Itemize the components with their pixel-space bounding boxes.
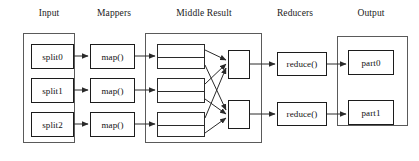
intermediate-partition-box bbox=[157, 78, 205, 103]
mapper-box: map() bbox=[90, 112, 135, 137]
mapper-box: map() bbox=[90, 78, 135, 103]
input-split-box: split2 bbox=[31, 112, 74, 137]
input-split-box: split0 bbox=[31, 44, 74, 69]
stage-label-middle-result: Middle Result bbox=[156, 8, 252, 18]
stage-label-output: Output bbox=[344, 8, 398, 18]
stage-label-input: Input bbox=[24, 8, 74, 18]
output-part-box: part0 bbox=[348, 50, 394, 75]
reducer-box: reduce() bbox=[277, 52, 327, 76]
reducer-box: reduce() bbox=[277, 102, 327, 126]
reducer-input-box bbox=[228, 100, 250, 129]
stage-label-mappers: Mappers bbox=[86, 8, 142, 18]
reducer-input-box bbox=[228, 50, 250, 79]
output-part-box: part1 bbox=[348, 100, 394, 125]
mapper-box: map() bbox=[90, 44, 135, 69]
intermediate-partition-box bbox=[157, 112, 205, 137]
stage-label-reducers: Reducers bbox=[264, 8, 326, 18]
intermediate-partition-box bbox=[157, 44, 205, 69]
mapreduce-dataflow-diagram: Input Mappers Middle Result Reducers Out… bbox=[0, 0, 419, 161]
input-split-box: split1 bbox=[31, 78, 74, 103]
